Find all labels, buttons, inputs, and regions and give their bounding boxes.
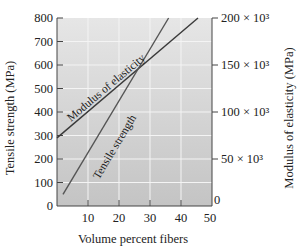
svg-text:20: 20 bbox=[113, 211, 126, 225]
svg-text:100: 100 bbox=[34, 176, 53, 190]
svg-text:400: 400 bbox=[34, 105, 53, 119]
svg-text:200: 200 bbox=[34, 152, 53, 166]
right-tick-labels: 0 50 × 10³ 100 × 10³ 150 × 10³ 200 × 10³ bbox=[214, 11, 270, 207]
svg-text:300: 300 bbox=[34, 129, 53, 143]
left-tick-labels: 0 100 200 300 400 500 600 700 800 bbox=[34, 11, 53, 213]
svg-text:0: 0 bbox=[214, 193, 220, 207]
svg-text:150 × 10³: 150 × 10³ bbox=[221, 58, 270, 72]
svg-text:200 × 10³: 200 × 10³ bbox=[221, 11, 270, 25]
left-axis-title: Tensile strength (MPa) bbox=[3, 61, 17, 175]
svg-text:600: 600 bbox=[34, 58, 53, 72]
right-ticks bbox=[212, 18, 218, 159]
svg-text:10: 10 bbox=[82, 211, 95, 225]
svg-text:50 × 10³: 50 × 10³ bbox=[221, 152, 263, 166]
svg-text:700: 700 bbox=[34, 35, 53, 49]
svg-text:30: 30 bbox=[144, 211, 157, 225]
bottom-tick-labels: 10 20 30 40 50 bbox=[82, 211, 217, 225]
right-axis-title: Modulus of elasticity (MPa) bbox=[282, 47, 296, 188]
svg-text:500: 500 bbox=[34, 82, 53, 96]
x-axis-title: Volume percent fibers bbox=[78, 232, 188, 246]
svg-text:0: 0 bbox=[47, 199, 53, 213]
chart-canvas: Modulus of elasticity Tensile strength 0… bbox=[0, 0, 301, 250]
svg-text:50: 50 bbox=[204, 211, 217, 225]
svg-text:40: 40 bbox=[175, 211, 188, 225]
svg-text:800: 800 bbox=[34, 11, 53, 25]
svg-text:100 × 10³: 100 × 10³ bbox=[221, 105, 270, 119]
